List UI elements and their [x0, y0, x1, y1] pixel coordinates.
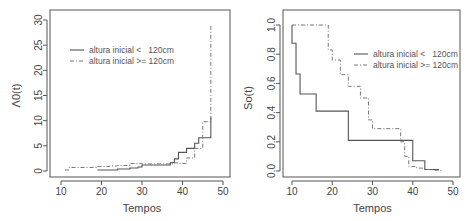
series-line-below-120cm: [97, 117, 210, 170]
plot-frame: [50, 10, 230, 177]
legend-label: altura inicial >= 120cm: [373, 60, 458, 70]
y-tick-label: 0: [33, 168, 44, 174]
x-tick-label: 20: [327, 186, 339, 197]
y-tick-label: 10: [33, 115, 44, 127]
x-tick-label: 20: [96, 186, 108, 197]
x-axis-title: Tempos: [353, 202, 392, 214]
y-axis-title: Λ0(t): [10, 84, 22, 108]
x-tick-label: 30: [136, 186, 148, 197]
plot-frame: [283, 10, 460, 177]
y-tick-label: 0.8: [266, 47, 277, 61]
y-tick-label: 0.0: [266, 164, 277, 178]
survival-panel: 1020304050Tempos0.00.20.40.60.81.0So(t)a…: [242, 10, 460, 214]
x-tick-label: 40: [177, 186, 189, 197]
x-tick-label: 50: [447, 186, 459, 197]
x-tick-label: 10: [55, 186, 67, 197]
x-tick-label: 50: [217, 186, 229, 197]
series-line-above-120cm: [292, 25, 441, 171]
x-tick-label: 30: [367, 186, 379, 197]
figure: 1020304050Tempos051015202530Λ0(t)altura …: [0, 0, 476, 221]
y-axis-title: So(t): [242, 86, 254, 110]
y-tick-label: 25: [33, 39, 44, 51]
y-tick-label: 15: [33, 90, 44, 102]
legend-label: altura inicial >= 120cm: [89, 56, 174, 66]
y-tick-label: 1.0: [266, 18, 277, 32]
cumulative-hazard-panel: 1020304050Tempos051015202530Λ0(t)altura …: [10, 10, 230, 214]
y-tick-label: 0.4: [266, 105, 277, 119]
y-tick-label: 0.6: [266, 76, 277, 90]
x-tick-label: 10: [286, 186, 298, 197]
legend-label: altura inicial < 120cm: [89, 45, 174, 55]
y-tick-label: 0.2: [266, 134, 277, 148]
y-tick-label: 20: [33, 64, 44, 76]
x-tick-label: 40: [407, 186, 419, 197]
y-tick-label: 30: [33, 14, 44, 26]
y-tick-label: 5: [33, 143, 44, 149]
series-line-below-120cm: [292, 25, 439, 170]
legend-label: altura inicial < 120cm: [373, 49, 458, 59]
x-axis-title: Tempos: [123, 202, 162, 214]
